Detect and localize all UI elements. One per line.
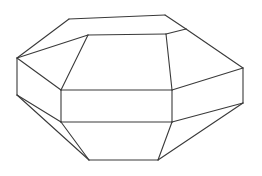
lower-panel-right-edge — [158, 122, 172, 160]
right-waist-bot-diagonal — [172, 103, 243, 122]
side-verticals-group — [17, 58, 243, 103]
top-face-right-back-edge — [165, 15, 186, 29]
upper-panels-group — [61, 29, 243, 90]
top-face-left-back-edge — [17, 19, 69, 58]
waist-band-group — [61, 90, 172, 122]
top-face-right-front-edge — [166, 29, 186, 34]
upper-panel-right-edge — [166, 34, 172, 90]
left-waist-top-diagonal — [17, 58, 61, 90]
top-face-front-edge — [88, 34, 166, 35]
top-face-back-edge — [69, 15, 165, 19]
top-face-group — [17, 15, 186, 58]
lower-facets-group — [17, 95, 243, 160]
upper-panel-far-right-edge — [186, 29, 243, 68]
top-face-left-front-edge — [17, 35, 88, 58]
polyhedron-wireframe — [0, 0, 262, 176]
lower-right-sliver-edge — [158, 103, 243, 160]
right-waist-top-diagonal — [172, 68, 243, 90]
upper-panel-left-edge — [61, 35, 88, 90]
left-waist-bot-diagonal — [17, 95, 61, 122]
lower-left-sliver-edge — [17, 95, 89, 160]
figure-canvas — [0, 0, 262, 176]
lower-panel-left-edge — [61, 122, 89, 160]
